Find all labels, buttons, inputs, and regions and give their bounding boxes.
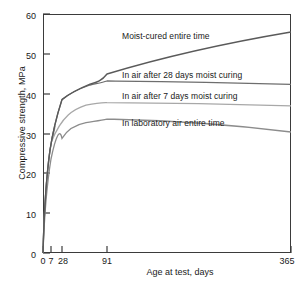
curve-label-in-laboratory-air-entire-time: In laboratory air entire time — [122, 118, 225, 128]
curve-label-in-air-after-28-days-moist-curing: In air after 28 days moist curing — [122, 70, 242, 80]
curve-in-laboratory-air-entire-time — [43, 119, 291, 253]
curve-moist-cured-entire-time — [43, 32, 291, 253]
curve-label-in-air-after-7-days-moist-curing: In air after 7 days moist curing — [122, 91, 237, 101]
x-axis-ticks — [43, 246, 291, 253]
curve-label-moist-cured-entire-time: Moist-cured entire time — [122, 31, 210, 41]
chart-figure: Compressive strength, MPa Age at test, d… — [0, 0, 303, 285]
chart-canvas — [0, 0, 303, 285]
